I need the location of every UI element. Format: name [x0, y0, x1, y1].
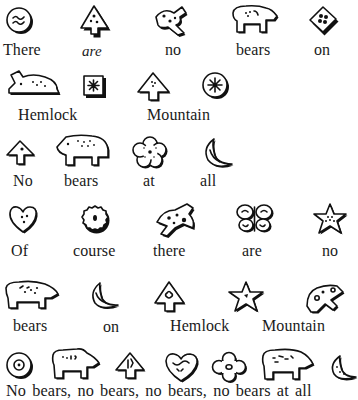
- word-no: no: [322, 243, 338, 259]
- square-cookie-icon: [82, 74, 108, 100]
- tree-cookie-icon: [135, 70, 173, 104]
- word-course: course: [73, 243, 115, 259]
- tree-cookie-icon: [114, 350, 148, 382]
- round-cookie-icon: [201, 71, 231, 101]
- word-there: There: [3, 42, 41, 58]
- star-cookie-icon: [311, 201, 351, 237]
- word-bears: bears: [236, 42, 270, 58]
- scalloped-cookie-icon: [78, 203, 114, 237]
- bear-cookie-icon: [49, 347, 101, 381]
- butterfly-cookie-icon: [235, 203, 275, 235]
- word-mountain: Mountain: [262, 318, 325, 334]
- word-at: at: [143, 173, 155, 189]
- word-bears: bears: [64, 173, 98, 189]
- tree-cookie-icon: [78, 3, 112, 37]
- moon-cookie-icon: [328, 353, 358, 383]
- word-mountain: Mountain: [147, 107, 210, 123]
- moon-cookie-icon: [88, 280, 120, 312]
- bird-cookie-icon: [152, 3, 192, 39]
- bear-cookie-icon: [230, 3, 280, 35]
- rabbit-cookie-icon: [5, 67, 61, 99]
- flower-cookie-icon: [132, 136, 168, 168]
- word-of: Of: [11, 243, 28, 259]
- bear-cookie-icon: [54, 133, 112, 169]
- word-on: on: [314, 42, 330, 58]
- word-bears: bears: [13, 318, 47, 334]
- tree-cookie-icon: [5, 138, 37, 168]
- round-cookie-icon: [6, 352, 36, 382]
- star-cookie-icon: [227, 279, 267, 315]
- word-are: are: [242, 243, 262, 259]
- final-line: No bears, no bears, no bears, no bears a…: [6, 383, 312, 399]
- moon-cookie-icon: [200, 136, 234, 170]
- word-there: there: [153, 243, 185, 259]
- tree-cookie-icon: [152, 279, 188, 315]
- word-hemlock: Hemlock: [170, 318, 229, 334]
- word-no-capital: No: [13, 173, 33, 189]
- word-no: no: [165, 42, 181, 58]
- word-are-italic: are: [82, 43, 102, 59]
- word-hemlock: Hemlock: [18, 107, 77, 123]
- bird-cookie-icon: [301, 280, 345, 316]
- bear-cookie-icon: [3, 278, 59, 312]
- diamond-cookie-icon: [308, 5, 340, 37]
- bird-cookie-icon: [153, 200, 201, 240]
- word-all: all: [200, 173, 216, 189]
- heart-cookie-icon: [7, 204, 41, 234]
- bear-cookie-icon: [259, 346, 315, 382]
- flower-cookie-icon: [211, 351, 249, 383]
- round-cookie-icon: [5, 6, 35, 36]
- heart-cookie-icon: [163, 351, 201, 383]
- word-on: on: [103, 319, 119, 335]
